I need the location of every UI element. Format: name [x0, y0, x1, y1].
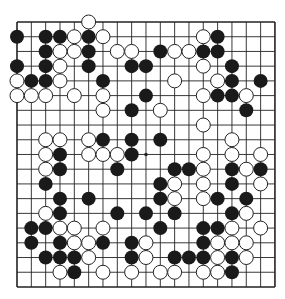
black-stone[interactable] — [67, 251, 81, 265]
white-stone[interactable] — [168, 192, 182, 206]
white-stone[interactable] — [196, 118, 210, 132]
black-stone[interactable] — [239, 103, 253, 117]
black-stone[interactable] — [53, 162, 67, 176]
black-stone[interactable] — [110, 206, 124, 220]
black-stone[interactable] — [53, 192, 67, 206]
black-stone[interactable] — [82, 59, 96, 73]
white-stone[interactable] — [168, 74, 182, 88]
white-stone[interactable] — [254, 221, 268, 235]
black-stone[interactable] — [53, 30, 67, 44]
white-stone[interactable] — [196, 89, 210, 103]
black-stone[interactable] — [110, 162, 124, 176]
white-stone[interactable] — [10, 74, 24, 88]
white-stone[interactable] — [53, 265, 67, 279]
black-stone[interactable] — [254, 162, 268, 176]
black-stone[interactable] — [211, 44, 225, 58]
black-stone[interactable] — [10, 59, 24, 73]
black-stone[interactable] — [225, 265, 239, 279]
black-stone[interactable] — [67, 265, 81, 279]
white-stone[interactable] — [24, 89, 38, 103]
white-stone[interactable] — [211, 251, 225, 265]
black-stone[interactable] — [153, 44, 167, 58]
white-stone[interactable] — [153, 265, 167, 279]
black-stone[interactable] — [139, 206, 153, 220]
black-stone[interactable] — [211, 221, 225, 235]
white-stone[interactable] — [239, 89, 253, 103]
white-stone[interactable] — [67, 44, 81, 58]
black-stone[interactable] — [225, 74, 239, 88]
black-stone[interactable] — [39, 177, 53, 191]
white-stone[interactable] — [96, 89, 110, 103]
white-stone[interactable] — [196, 59, 210, 73]
white-stone[interactable] — [196, 177, 210, 191]
white-stone[interactable] — [225, 236, 239, 250]
black-stone[interactable] — [53, 251, 67, 265]
white-stone[interactable] — [239, 162, 253, 176]
white-stone[interactable] — [96, 147, 110, 161]
black-stone[interactable] — [211, 30, 225, 44]
white-stone[interactable] — [168, 265, 182, 279]
black-stone[interactable] — [196, 221, 210, 235]
black-stone[interactable] — [125, 147, 139, 161]
black-stone[interactable] — [153, 221, 167, 235]
white-stone[interactable] — [96, 221, 110, 235]
black-stone[interactable] — [182, 251, 196, 265]
white-stone[interactable] — [39, 206, 53, 220]
black-stone[interactable] — [225, 59, 239, 73]
black-stone[interactable] — [153, 177, 167, 191]
white-stone[interactable] — [39, 147, 53, 161]
black-stone[interactable] — [53, 147, 67, 161]
white-stone[interactable] — [67, 221, 81, 235]
white-stone[interactable] — [53, 44, 67, 58]
black-stone[interactable] — [125, 251, 139, 265]
white-stone[interactable] — [196, 162, 210, 176]
black-stone[interactable] — [139, 89, 153, 103]
black-stone[interactable] — [96, 74, 110, 88]
black-stone[interactable] — [254, 74, 268, 88]
black-stone[interactable] — [168, 206, 182, 220]
white-stone[interactable] — [168, 44, 182, 58]
white-stone[interactable] — [168, 177, 182, 191]
white-stone[interactable] — [67, 236, 81, 250]
white-stone[interactable] — [110, 147, 124, 161]
black-stone[interactable] — [39, 251, 53, 265]
white-stone[interactable] — [53, 59, 67, 73]
white-stone[interactable] — [254, 177, 268, 191]
white-stone[interactable] — [67, 30, 81, 44]
black-stone[interactable] — [96, 236, 110, 250]
black-stone[interactable] — [168, 162, 182, 176]
black-stone[interactable] — [39, 74, 53, 88]
black-stone[interactable] — [82, 44, 96, 58]
white-stone[interactable] — [96, 103, 110, 117]
white-stone[interactable] — [239, 236, 253, 250]
black-stone[interactable] — [225, 162, 239, 176]
black-stone[interactable] — [225, 89, 239, 103]
black-stone[interactable] — [39, 221, 53, 235]
black-stone[interactable] — [39, 30, 53, 44]
black-stone[interactable] — [239, 192, 253, 206]
black-stone[interactable] — [10, 30, 24, 44]
white-stone[interactable] — [196, 192, 210, 206]
black-stone[interactable] — [153, 133, 167, 147]
black-stone[interactable] — [182, 162, 196, 176]
white-stone[interactable] — [196, 265, 210, 279]
black-stone[interactable] — [211, 89, 225, 103]
white-stone[interactable] — [53, 74, 67, 88]
white-stone[interactable] — [211, 265, 225, 279]
black-stone[interactable] — [24, 236, 38, 250]
white-stone[interactable] — [67, 89, 81, 103]
white-stone[interactable] — [82, 251, 96, 265]
black-stone[interactable] — [39, 44, 53, 58]
white-stone[interactable] — [254, 147, 268, 161]
white-stone[interactable] — [96, 30, 110, 44]
black-stone[interactable] — [168, 251, 182, 265]
white-stone[interactable] — [225, 221, 239, 235]
white-stone[interactable] — [239, 251, 253, 265]
black-stone[interactable] — [125, 236, 139, 250]
white-stone[interactable] — [10, 89, 24, 103]
white-stone[interactable] — [110, 44, 124, 58]
black-stone[interactable] — [211, 192, 225, 206]
white-stone[interactable] — [153, 103, 167, 117]
white-stone[interactable] — [82, 133, 96, 147]
white-stone[interactable] — [211, 74, 225, 88]
